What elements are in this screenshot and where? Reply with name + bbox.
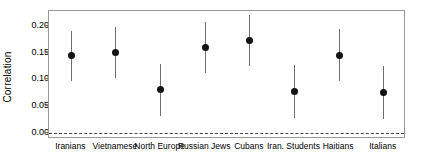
x-axis-tick-label: Russian Jews bbox=[178, 141, 230, 151]
x-axis-tick-label: Cubans bbox=[234, 141, 263, 151]
data-point-marker bbox=[202, 44, 209, 51]
y-axis-tick-label: 0.05 bbox=[9, 100, 49, 110]
y-axis-tick-label: 0.10 bbox=[9, 73, 49, 83]
x-axis-tick-label: Italians bbox=[369, 141, 396, 151]
data-point-marker bbox=[157, 86, 164, 93]
x-axis-tick-label: Iranians bbox=[55, 141, 85, 151]
correlation-error-bar-chart: Correlation 0.000.050.100.150.20 Iranian… bbox=[0, 0, 421, 154]
x-axis-tick-label: Haitians bbox=[323, 141, 354, 151]
data-point-marker bbox=[68, 52, 75, 59]
y-axis-tick-label: 0.20 bbox=[9, 20, 49, 30]
y-axis-tick-label: 0.00 bbox=[9, 127, 49, 137]
zero-reference-line bbox=[49, 133, 404, 134]
plot-panel bbox=[48, 10, 405, 138]
data-point-marker bbox=[291, 88, 298, 95]
y-axis-tick-label: 0.15 bbox=[9, 47, 49, 57]
data-point-marker bbox=[246, 37, 253, 44]
x-axis-tick-label: Iran. Students bbox=[267, 141, 320, 151]
data-point-marker bbox=[112, 49, 119, 56]
data-point-marker bbox=[336, 52, 343, 59]
x-axis-tick-label: Vietnamese bbox=[93, 141, 138, 151]
data-point-marker bbox=[380, 89, 387, 96]
